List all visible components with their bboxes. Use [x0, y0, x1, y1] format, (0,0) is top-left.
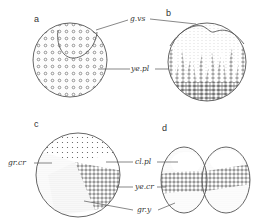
egg-a-fill: [30, 20, 110, 100]
panel-c: c: [30, 119, 133, 220]
panel-a: a: [30, 14, 130, 100]
blastomere-right-fill: [200, 146, 252, 216]
label-cl-pl: cl.pl: [135, 157, 152, 166]
label-gr-cr: gr.cr: [8, 158, 26, 167]
leader-g-vs-a: [96, 20, 128, 30]
panel-letter-d: d: [162, 123, 167, 133]
label-g-vs: g.vs: [130, 14, 145, 23]
egg-c-fill: [30, 120, 130, 220]
label-ye-pl: ye.pl: [130, 64, 150, 73]
label-gr-y: gr.y: [137, 205, 152, 214]
panel-d: d: [157, 123, 252, 216]
label-ye-cr: ye.cr: [134, 182, 154, 191]
panel-letter-b: b: [166, 8, 171, 18]
panel-letter-a: a: [34, 14, 39, 24]
panel-b: b: [150, 8, 248, 102]
egg-development-figure: a b g.vs ye.pl c: [0, 0, 262, 222]
panel-letter-c: c: [34, 119, 39, 129]
leader-g-vs-b: [150, 19, 196, 24]
